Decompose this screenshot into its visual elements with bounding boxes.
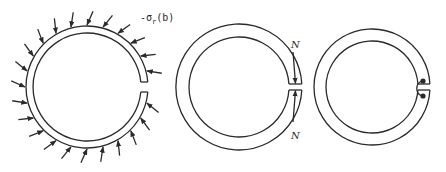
pressure-arrow	[54, 18, 56, 33]
figure-canvas: -σr(b) N N	[0, 0, 446, 172]
joint-pin-top	[420, 78, 425, 83]
pressure-arrow	[18, 118, 33, 120]
force-label-bottom: N	[290, 130, 301, 141]
inner-ring-edge	[33, 33, 141, 141]
pressure-label: -σr(b)	[140, 12, 174, 26]
pressure-arrow	[11, 81, 25, 87]
force-label-top: N	[290, 39, 301, 50]
pressure-arrow	[71, 12, 73, 27]
pressure-arrow	[101, 147, 103, 162]
pressure-arrow	[118, 24, 130, 33]
inner-ring-edge	[326, 41, 418, 133]
panel-pressure-ring: -σr(b)	[11, 11, 174, 163]
pressure-arrow	[81, 149, 87, 163]
pressure-arrow	[24, 44, 33, 56]
outer-ring-edge	[176, 24, 302, 150]
pressure-arrow	[118, 141, 120, 156]
pressure-arrow	[62, 147, 71, 159]
outer-ring-edge	[314, 29, 430, 145]
pressure-arrows	[11, 11, 162, 163]
pressure-arrow	[15, 62, 27, 71]
inner-ring-edge	[189, 37, 289, 137]
pressure-arrow	[44, 141, 56, 150]
pressure-arrow	[29, 131, 43, 136]
pressure-arrow	[131, 131, 136, 145]
pressure-arrow	[103, 15, 112, 27]
pressure-arrow	[141, 118, 150, 130]
pressure-arrow	[147, 71, 162, 73]
pressure-arrow	[131, 38, 145, 43]
outer-ring-edge	[26, 26, 148, 148]
pressure-arrow	[12, 101, 27, 103]
pressure-arrow	[147, 103, 159, 112]
panel-joint-ring	[314, 29, 430, 145]
joint-pin-bottom	[420, 93, 425, 98]
pressure-arrow	[38, 29, 43, 43]
panel-normal-force-ring: N N	[176, 24, 302, 150]
pressure-arrow	[87, 11, 93, 25]
pressure-arrow	[141, 54, 156, 56]
